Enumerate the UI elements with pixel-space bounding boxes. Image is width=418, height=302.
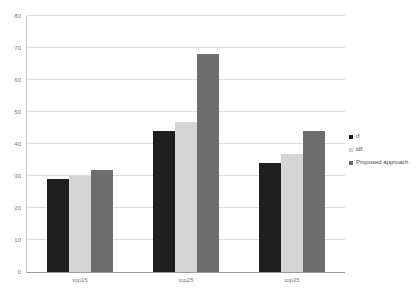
- y-axis-tick-label: 30: [1, 173, 21, 179]
- y-axis-tick-label: 10: [1, 237, 21, 243]
- gridline: [27, 47, 345, 48]
- legend-entry: tf: [349, 133, 408, 140]
- bar-idf-top35: [281, 154, 303, 272]
- gridline: [27, 79, 345, 80]
- bar-tf-top25: [153, 131, 175, 272]
- x-axis-tick-label: top25: [156, 276, 216, 284]
- y-axis-tick-label: 60: [1, 77, 21, 83]
- bar-chart-figure: 01020304050607080top15top25top35 tfidfPr…: [0, 0, 418, 302]
- y-axis-tick-label: 50: [1, 109, 21, 115]
- x-axis-tick-label: top35: [262, 276, 322, 284]
- legend-entry: Proposed approach: [349, 159, 408, 166]
- bar-proposed-approach-top15: [91, 170, 113, 272]
- gridline: [27, 15, 345, 16]
- bar-tf-top15: [47, 179, 69, 272]
- bar-idf-top25: [175, 122, 197, 272]
- bar-tf-top35: [259, 163, 281, 272]
- plot-area: 01020304050607080top15top25top35: [26, 16, 345, 273]
- legend-label: idf: [356, 146, 362, 153]
- legend-label: tf: [356, 133, 359, 140]
- legend-entry: idf: [349, 146, 408, 153]
- bar-idf-top15: [69, 176, 91, 272]
- legend-swatch-icon: [349, 148, 353, 152]
- legend-swatch-icon: [349, 135, 353, 139]
- legend-label: Proposed approach: [356, 159, 408, 166]
- bar-proposed-approach-top35: [303, 131, 325, 272]
- y-axis-tick-label: 0: [1, 269, 21, 275]
- legend-swatch-icon: [349, 161, 353, 165]
- bar-proposed-approach-top25: [197, 54, 219, 272]
- y-axis-tick-label: 20: [1, 205, 21, 211]
- gridline: [27, 111, 345, 112]
- y-axis-tick-label: 40: [1, 141, 21, 147]
- y-axis-tick-label: 70: [1, 45, 21, 51]
- chart-legend: tfidfProposed approach: [349, 133, 408, 172]
- x-axis-tick-label: top15: [50, 276, 110, 284]
- y-axis-tick-label: 80: [1, 13, 21, 19]
